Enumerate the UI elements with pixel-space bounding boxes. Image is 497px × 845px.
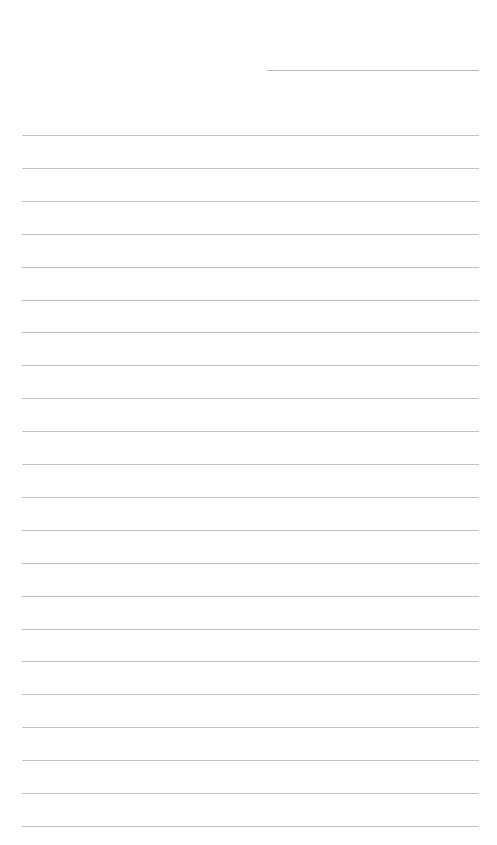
ruled-line <box>22 563 479 564</box>
ruled-line <box>22 727 479 728</box>
ruled-line <box>22 629 479 630</box>
ruled-line <box>22 234 479 235</box>
ruled-line <box>22 168 479 169</box>
ruled-line <box>22 793 479 794</box>
ruled-line <box>22 267 479 268</box>
ruled-line <box>22 826 479 827</box>
ruled-line <box>22 300 479 301</box>
ruled-line <box>22 332 479 333</box>
ruled-page <box>0 0 497 845</box>
ruled-line <box>22 694 479 695</box>
ruled-line <box>22 201 479 202</box>
ruled-line <box>22 464 479 465</box>
header-write-line <box>267 70 479 71</box>
ruled-line <box>22 135 479 136</box>
ruled-line <box>22 365 479 366</box>
ruled-line <box>22 530 479 531</box>
ruled-line <box>22 760 479 761</box>
ruled-line <box>22 661 479 662</box>
ruled-line <box>22 398 479 399</box>
ruled-line <box>22 596 479 597</box>
ruled-line <box>22 497 479 498</box>
ruled-line <box>22 431 479 432</box>
